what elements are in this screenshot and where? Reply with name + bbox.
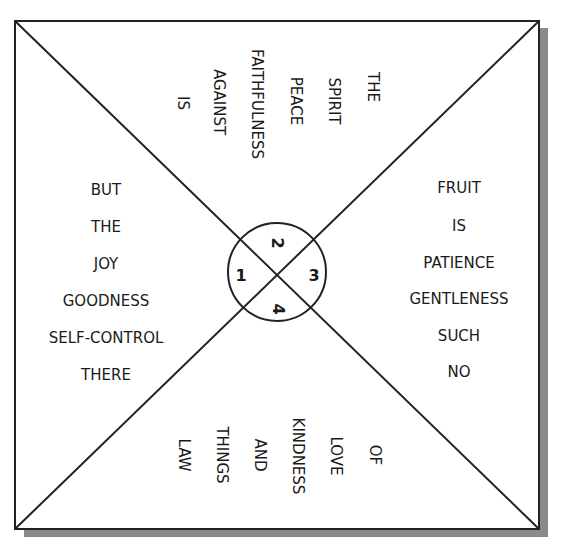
right-word: IS <box>452 217 466 235</box>
bottom-word: AND <box>251 438 269 471</box>
right-word: PATIENCE <box>423 254 494 272</box>
top-word: PEACE <box>287 77 305 125</box>
bottom-word: LOVE <box>327 436 345 475</box>
top-word: IS <box>174 96 192 110</box>
top-word: FAITHFULNESS <box>248 49 266 159</box>
quadrant-number-1: 1 <box>235 266 246 285</box>
left-word: THERE <box>81 366 131 384</box>
right-word: GENTLENESS <box>409 290 508 308</box>
quadrant-number-3: 3 <box>308 266 319 285</box>
top-word: AGAINST <box>210 69 228 135</box>
left-word: BUT <box>91 181 121 199</box>
right-word: NO <box>447 363 470 381</box>
left-word: THE <box>91 218 121 236</box>
right-word: FRUIT <box>437 179 481 197</box>
left-word: JOY <box>94 255 119 273</box>
quadrant-number-4: 4 <box>269 303 288 314</box>
bottom-word: THINGS <box>213 426 231 483</box>
top-word: THE <box>364 72 382 102</box>
bottom-word: OF <box>366 445 384 465</box>
top-word: SPIRIT <box>325 78 343 125</box>
bottom-word: LAW <box>175 439 193 472</box>
left-word: SELF-CONTROL <box>49 329 164 347</box>
left-word: GOODNESS <box>63 292 150 310</box>
quadrant-number-2: 2 <box>268 237 287 248</box>
right-word: SUCH <box>438 327 480 345</box>
bottom-word: KINDNESS <box>289 418 307 495</box>
diagonal-lines <box>0 0 561 546</box>
